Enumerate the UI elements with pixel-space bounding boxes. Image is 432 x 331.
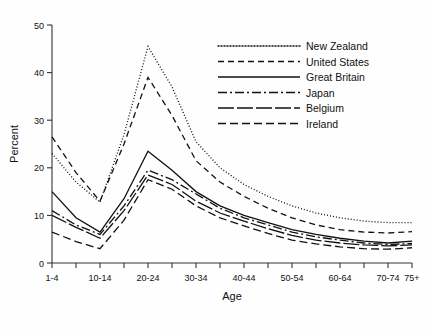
legend-label-united-states: United States bbox=[306, 56, 369, 68]
legend-label-ireland: Ireland bbox=[306, 118, 338, 130]
y-tick-label: 40 bbox=[34, 68, 44, 78]
legend-label-japan: Japan bbox=[306, 87, 335, 99]
x-tick-label: 50-54 bbox=[280, 273, 303, 283]
y-tick-label: 20 bbox=[34, 163, 44, 173]
x-axis-title: Age bbox=[222, 290, 242, 302]
x-tick-label: 1-4 bbox=[45, 273, 58, 283]
y-axis-title: Percent bbox=[8, 125, 20, 163]
line-chart: 010203040501-410-1420-2430-3440-4450-546… bbox=[0, 0, 432, 331]
chart-figure: 010203040501-410-1420-2430-3440-4450-546… bbox=[0, 0, 432, 331]
x-tick-label: 30-34 bbox=[184, 273, 207, 283]
y-tick-label: 0 bbox=[39, 259, 44, 269]
series-line-united-states bbox=[52, 77, 412, 233]
x-tick-label: 75+ bbox=[404, 273, 419, 283]
legend-label-new-zealand: New Zealand bbox=[306, 40, 368, 52]
series-line-japan bbox=[52, 170, 412, 244]
x-tick-label: 10-14 bbox=[88, 273, 111, 283]
series-line-great-britain bbox=[52, 151, 412, 243]
x-tick-label: 40-44 bbox=[232, 273, 255, 283]
legend-label-great-britain: Great Britain bbox=[306, 71, 365, 83]
y-tick-label: 10 bbox=[34, 211, 44, 221]
y-tick-label: 50 bbox=[34, 21, 44, 31]
x-tick-label: 60-64 bbox=[328, 273, 351, 283]
series-line-ireland bbox=[52, 180, 412, 250]
legend-label-belgium: Belgium bbox=[306, 102, 344, 114]
x-tick-label: 20-24 bbox=[136, 273, 159, 283]
y-tick-label: 30 bbox=[34, 116, 44, 126]
x-tick-label: 70-74 bbox=[376, 273, 399, 283]
